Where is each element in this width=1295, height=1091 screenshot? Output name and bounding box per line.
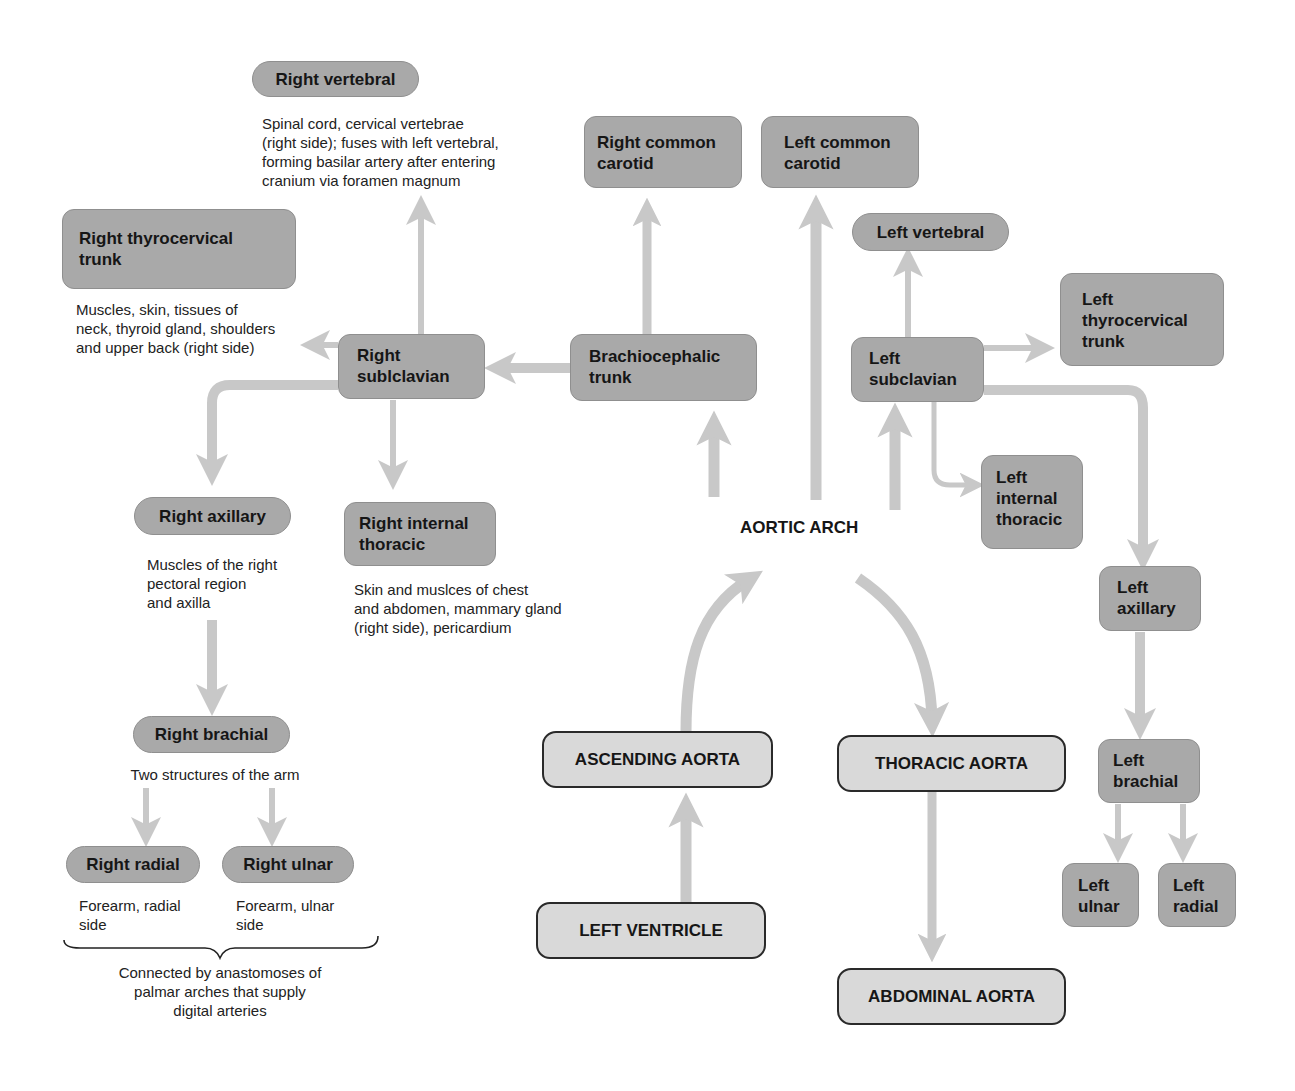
aortic-arch-label: AORTIC ARCH bbox=[740, 518, 858, 538]
left-axillary-box: Left axillary bbox=[1099, 566, 1201, 631]
right-common-carotid-label: Right common carotid bbox=[597, 133, 716, 173]
right-ulnar-box: Right ulnar bbox=[222, 846, 354, 883]
right-radial-note: Forearm, radial side bbox=[79, 896, 181, 934]
right-ulnar-note: Forearm, ulnar side bbox=[236, 896, 334, 934]
right-brachial-note: Two structures of the arm bbox=[100, 765, 330, 784]
right-vertebral-note: Spinal cord, cervical vertebrae (right s… bbox=[262, 114, 499, 190]
right-internal-thoracic-label: Right internal thoracic bbox=[359, 514, 469, 554]
left-radial-label: Left radial bbox=[1173, 876, 1218, 916]
arrow-arch-to-thoracic bbox=[858, 578, 932, 720]
brace bbox=[64, 936, 378, 958]
left-common-carotid-label: Left common carotid bbox=[784, 133, 891, 173]
left-common-carotid-box: Left common carotid bbox=[761, 116, 919, 188]
right-axillary-box: Right axillary bbox=[134, 497, 291, 535]
left-internal-thoracic-label: Left internal thoracic bbox=[996, 468, 1062, 529]
right-subclavian-box: Right sublclavian bbox=[338, 334, 485, 399]
right-common-carotid-box: Right common carotid bbox=[584, 116, 742, 188]
left-ventricle-box: LEFT VENTRICLE bbox=[536, 902, 766, 959]
abdominal-aorta-box: ABDOMINAL AORTA bbox=[837, 968, 1066, 1025]
right-thyrocervical-box: Right thyrocervical trunk bbox=[62, 209, 296, 289]
right-ulnar-label: Right ulnar bbox=[243, 854, 333, 875]
right-subclavian-label: Right sublclavian bbox=[357, 346, 450, 386]
left-ulnar-label: Left ulnar bbox=[1078, 876, 1120, 916]
ascending-aorta-label: ASCENDING AORTA bbox=[575, 749, 740, 770]
right-vertebral-box: Right vertebral bbox=[252, 61, 419, 97]
left-axillary-label: Left axillary bbox=[1117, 578, 1176, 618]
left-radial-box: Left radial bbox=[1158, 863, 1236, 927]
palmar-arches-note: Connected by anastomoses of palmar arche… bbox=[80, 963, 360, 1020]
right-thyrocervical-label: Right thyrocervical trunk bbox=[79, 229, 233, 269]
thoracic-aorta-label: THORACIC AORTA bbox=[875, 753, 1028, 774]
left-vertebral-box: Left vertebral bbox=[852, 213, 1009, 251]
left-subclavian-label: Left subclavian bbox=[869, 349, 957, 389]
right-internal-thoracic-note: Skin and muslces of chest and abdomen, m… bbox=[354, 580, 562, 637]
abdominal-aorta-label: ABDOMINAL AORTA bbox=[868, 986, 1035, 1007]
arrow-right-subclavian-to-axillary bbox=[212, 385, 338, 470]
right-brachial-box: Right brachial bbox=[133, 716, 290, 753]
brachiocephalic-trunk-box: Brachiocephalic trunk bbox=[570, 334, 757, 401]
left-internal-thoracic-box: Left internal thoracic bbox=[981, 455, 1083, 549]
arrow-ascending-to-arch bbox=[686, 580, 748, 732]
brachiocephalic-trunk-label: Brachiocephalic trunk bbox=[589, 347, 720, 387]
left-ventricle-label: LEFT VENTRICLE bbox=[579, 920, 723, 941]
left-vertebral-label: Left vertebral bbox=[877, 222, 985, 243]
arrow-left-subclavian-to-internal-thoracic bbox=[934, 402, 972, 485]
left-brachial-box: Left brachial bbox=[1098, 739, 1200, 803]
left-brachial-label: Left brachial bbox=[1113, 751, 1178, 791]
right-axillary-note: Muscles of the right pectoral region and… bbox=[147, 555, 277, 612]
left-thyrocervical-label: Left thyrocervical trunk bbox=[1082, 290, 1188, 351]
right-brachial-label: Right brachial bbox=[155, 724, 268, 745]
left-thyrocervical-box: Left thyrocervical trunk bbox=[1060, 273, 1224, 366]
ascending-aorta-box: ASCENDING AORTA bbox=[542, 731, 773, 788]
right-radial-box: Right radial bbox=[66, 846, 200, 883]
right-radial-label: Right radial bbox=[86, 854, 180, 875]
right-axillary-label: Right axillary bbox=[159, 506, 266, 527]
left-ulnar-box: Left ulnar bbox=[1062, 863, 1139, 927]
right-internal-thoracic-box: Right internal thoracic bbox=[344, 502, 496, 566]
thoracic-aorta-box: THORACIC AORTA bbox=[837, 735, 1066, 792]
right-thyrocervical-note: Muscles, skin, tissues of neck, thyroid … bbox=[76, 300, 275, 357]
left-subclavian-box: Left subclavian bbox=[851, 337, 984, 402]
right-vertebral-label: Right vertebral bbox=[276, 69, 396, 90]
